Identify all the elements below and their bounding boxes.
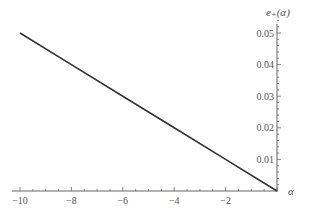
y-axis: 0.010.020.030.040.05 — [257, 20, 282, 191]
x-axis-label: α — [288, 185, 294, 197]
data-series — [20, 33, 277, 191]
y-tick-label: 0.05 — [257, 28, 275, 39]
chart: −10−8−6−4−2 0.010.020.030.040.05 α e₊(α) — [0, 0, 312, 219]
x-axis: −10−8−6−4−2 — [12, 187, 278, 206]
x-tick-label: −6 — [117, 195, 128, 206]
y-tick-label: 0.01 — [257, 154, 275, 165]
series-line — [20, 33, 277, 191]
x-tick-label: −4 — [169, 195, 180, 206]
y-tick-label: 0.03 — [257, 91, 275, 102]
x-tick-label: −2 — [220, 195, 231, 206]
x-tick-label: −8 — [66, 195, 77, 206]
y-tick-label: 0.04 — [257, 59, 275, 70]
x-tick-label: −10 — [12, 195, 28, 206]
y-axis-label: e₊(α) — [266, 6, 290, 19]
y-tick-label: 0.02 — [257, 122, 275, 133]
